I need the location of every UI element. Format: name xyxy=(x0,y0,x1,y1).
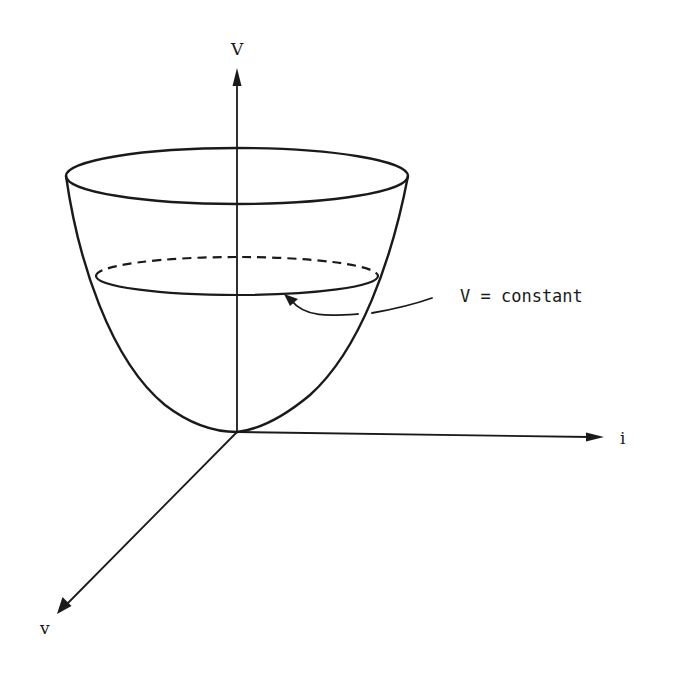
bowl-right-side xyxy=(237,176,408,432)
horizontal-axis-label: i xyxy=(620,428,626,448)
bowl-left-side xyxy=(66,176,237,432)
paraboloid-diagram: V i v V = constant xyxy=(0,0,673,679)
horizontal-axis: i xyxy=(237,428,626,448)
vertical-axis: V xyxy=(230,39,244,432)
vertical-axis-arrowhead-icon xyxy=(233,68,242,86)
annotation-leader-outer xyxy=(372,298,432,313)
oblique-axis: v xyxy=(39,432,237,638)
annotation-leader-inner xyxy=(291,300,358,315)
oblique-axis-arrowhead-icon xyxy=(57,597,72,614)
vertical-axis-label: V xyxy=(230,39,244,59)
oblique-axis-label: v xyxy=(39,618,50,638)
horizontal-axis-arrowhead-icon xyxy=(586,433,604,442)
annotation-label: V = constant xyxy=(460,286,583,306)
